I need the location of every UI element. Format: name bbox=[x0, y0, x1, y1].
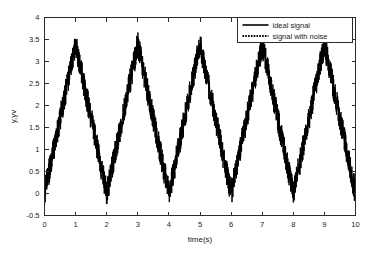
x-tick-label: 5 bbox=[198, 220, 202, 229]
chart-canvas: 012345678910-0.500.511.522.533.54 time(s… bbox=[0, 0, 372, 257]
y-tick-label: 1.5 bbox=[29, 123, 39, 132]
y-tick-label: 2.5 bbox=[29, 79, 39, 88]
y-axis-label: y,yv bbox=[9, 110, 18, 124]
x-tick-label: 0 bbox=[42, 220, 46, 229]
x-tick-label: 6 bbox=[229, 220, 233, 229]
legend-label-ideal-signal: ideal signal bbox=[273, 21, 311, 30]
x-tick-label: 8 bbox=[291, 220, 295, 229]
legend: ideal signalsignal with noise bbox=[238, 18, 353, 43]
y-tick-label: 0 bbox=[35, 189, 39, 198]
x-tick-label: 4 bbox=[167, 220, 171, 229]
x-tick-label: 9 bbox=[322, 220, 326, 229]
y-tick-label: 4 bbox=[35, 13, 39, 22]
x-tick-label: 7 bbox=[260, 220, 264, 229]
y-tick-label: -0.5 bbox=[27, 211, 40, 220]
y-tick-label: 3.5 bbox=[29, 35, 39, 44]
x-axis-label: time(s) bbox=[188, 235, 213, 244]
x-tick-label: 3 bbox=[136, 220, 140, 229]
x-tick-label: 10 bbox=[351, 220, 359, 229]
x-tick-label: 1 bbox=[74, 220, 78, 229]
y-tick-label: 2 bbox=[35, 101, 39, 110]
x-tick-label: 2 bbox=[105, 220, 109, 229]
y-tick-label: 0.5 bbox=[29, 167, 39, 176]
y-tick-label: 3 bbox=[35, 57, 39, 66]
trace-ideal-signal bbox=[45, 44, 356, 194]
y-tick-label: 1 bbox=[35, 145, 39, 154]
signal-traces bbox=[45, 33, 356, 205]
legend-label-signal-with-noise: signal with noise bbox=[273, 32, 328, 41]
figure-container: 012345678910-0.500.511.522.533.54 time(s… bbox=[0, 0, 372, 257]
